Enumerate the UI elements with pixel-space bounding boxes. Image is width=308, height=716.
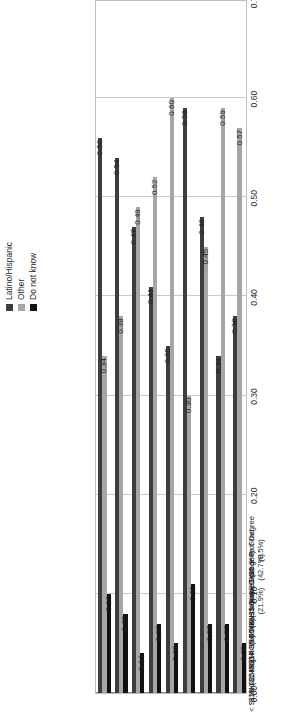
bar-value-label: 0.11 (189, 584, 197, 601)
bar-value-label: 0.56 (96, 138, 104, 156)
bar-value-label: 0.08 (121, 614, 129, 632)
legend-item-label: Other (17, 279, 26, 300)
bar-value-label: 0.05 (172, 643, 180, 661)
plot-area: 0.560.340.100.540.380.080.470.490.040.41… (95, 0, 247, 694)
bar-value-label: 0.49 (134, 207, 142, 225)
bar-value-label: 0.07 (223, 624, 231, 642)
bar-value-label: 0.07 (206, 624, 214, 642)
axis-area: 0.560.340.100.540.380.080.470.490.040.41… (95, 0, 247, 694)
plot-wrapper: 0.560.340.100.540.380.080.470.490.040.41… (95, 0, 285, 716)
bar-value-label: 0.34 (100, 356, 108, 374)
bar-value-label: 0.38 (117, 316, 125, 334)
bar-value-label: 0.59 (219, 108, 227, 126)
bar-value-label: 0.60 (168, 98, 176, 116)
chart-legend: Latino/HispanicOtherDo not know (5, 242, 38, 311)
bar-value-label: 0.48 (198, 217, 206, 235)
category-label: Grad or Prof Degree (9.5%) (247, 507, 265, 593)
bar-value-label: 0.45 (202, 247, 210, 265)
legend-item-label: Do not know (29, 253, 38, 300)
category-axis-labels: < $15K (11.1%)$15K-$24K (17.9%)$25K-$34K… (247, 0, 287, 694)
bar-chart-figure: Latino/HispanicOtherDo not know 0.560.34… (0, 0, 308, 716)
legend-item: Other (17, 242, 26, 311)
rotated-figure-container: Latino/HispanicOtherDo not know 0.560.34… (0, 0, 308, 716)
bar-value-label: 0.59 (181, 108, 189, 126)
legend-item: Do not know (29, 242, 38, 311)
bar-value-label: 0.30 (185, 396, 193, 414)
legend-swatch-icon (30, 304, 37, 311)
legend-swatch-icon (6, 304, 13, 311)
bar-value-label: 0.57 (236, 128, 244, 146)
legend-item: Latino/Hispanic (5, 242, 14, 311)
bar (170, 98, 174, 693)
bar (136, 207, 140, 693)
bar-value-label: 0.07 (155, 624, 163, 642)
bar-value-label: 0.54 (113, 158, 121, 176)
legend-item-label: Latino/Hispanic (5, 242, 14, 300)
bar (237, 128, 241, 693)
bar-value-label: 0.52 (151, 177, 159, 195)
bar (153, 177, 157, 693)
bar-value-label: 0.10 (105, 594, 113, 612)
bar (221, 108, 225, 693)
bar-value-label: 0.04 (138, 653, 146, 671)
legend-swatch-icon (18, 304, 25, 311)
